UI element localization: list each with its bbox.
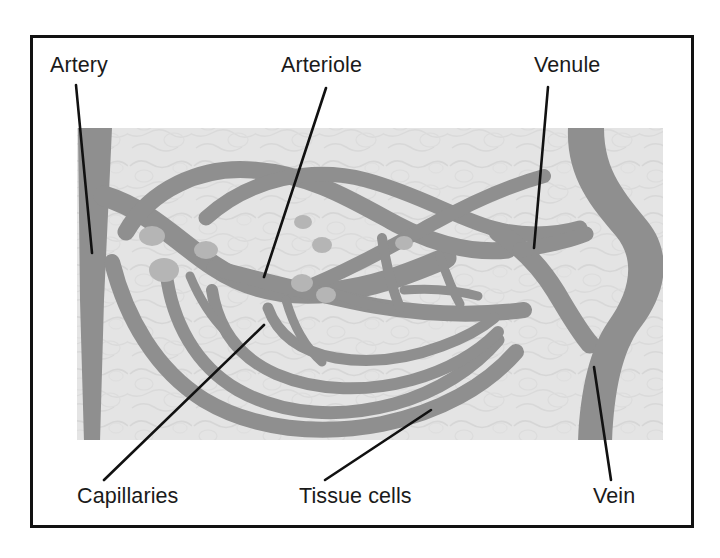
- label-arteriole: Arteriole: [281, 53, 362, 77]
- capillary-bed-diagram: Artery Arteriole Venule Capillaries Tiss…: [0, 0, 720, 558]
- label-venule: Venule: [534, 53, 600, 77]
- precapillary-sphincter: [139, 226, 165, 246]
- label-capillaries: Capillaries: [77, 484, 178, 508]
- precapillary-sphincter: [149, 258, 179, 282]
- label-vein: Vein: [593, 484, 635, 508]
- precapillary-sphincter: [194, 241, 218, 259]
- precapillary-sphincter: [291, 274, 313, 292]
- precapillary-sphincter: [316, 287, 336, 303]
- label-artery: Artery: [50, 53, 108, 77]
- figure-root: Artery Arteriole Venule Capillaries Tiss…: [0, 0, 720, 558]
- precapillary-sphincter: [395, 236, 413, 250]
- precapillary-sphincter: [294, 215, 312, 229]
- precapillary-sphincter: [312, 237, 332, 253]
- label-tissue-cells: Tissue cells: [299, 484, 412, 508]
